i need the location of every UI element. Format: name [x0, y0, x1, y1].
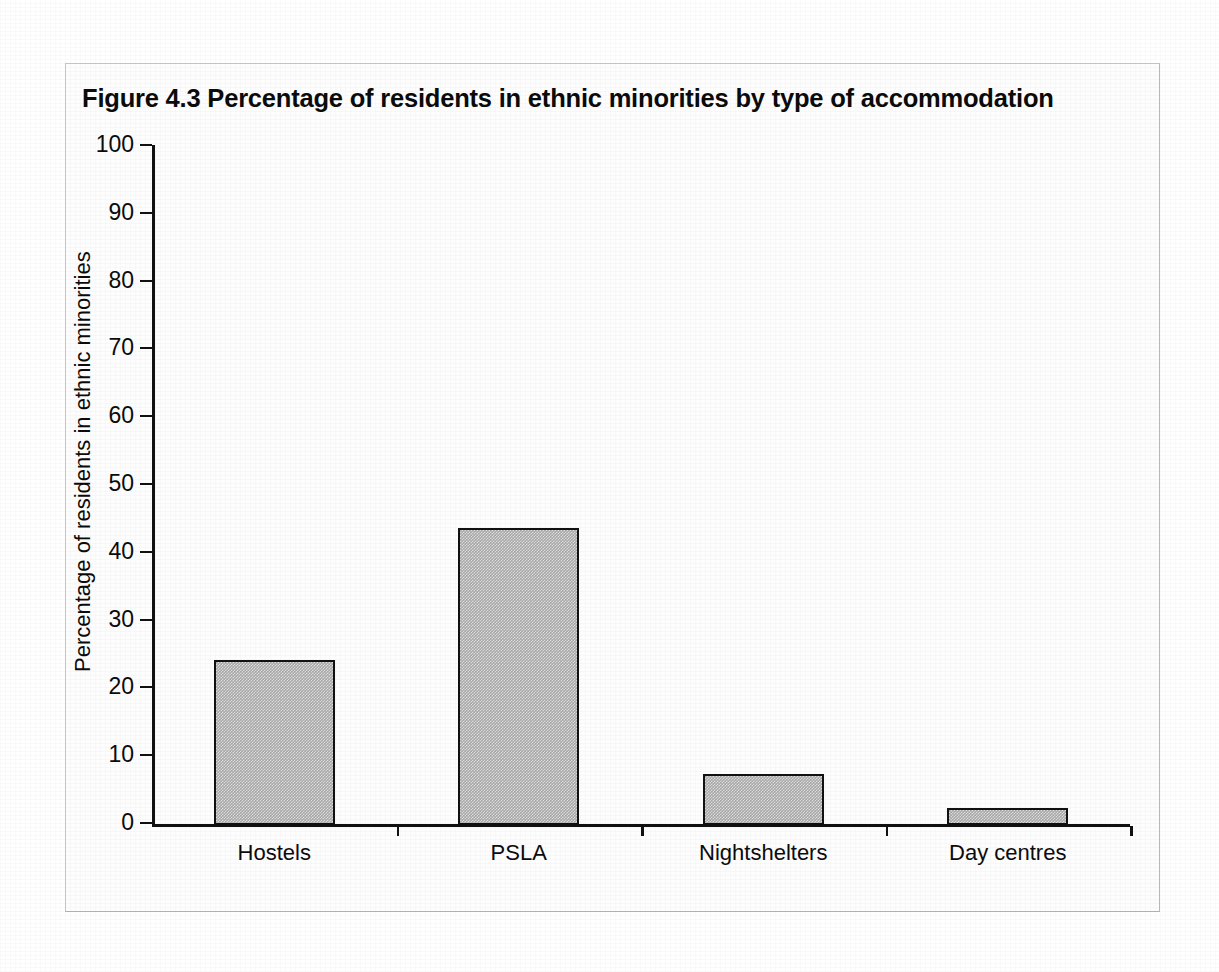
figure-frame — [65, 63, 1160, 912]
scanned-page: Figure 4.3 Percentage of residents in et… — [0, 0, 1219, 972]
page-title: Figure 4.3 Percentage of residents in et… — [82, 83, 1142, 113]
